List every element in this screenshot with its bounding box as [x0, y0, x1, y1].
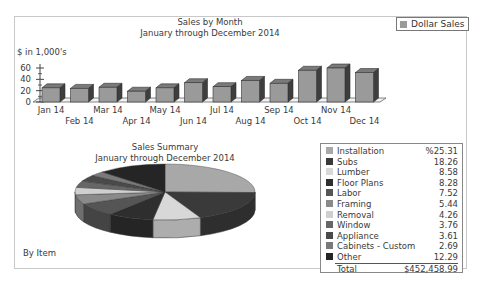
legend-row-label: Cabinets - Custom	[337, 241, 415, 251]
legend-swatch	[326, 189, 333, 196]
pie-chart-plot	[0, 160, 310, 250]
x-tick-label: Dec 14	[350, 116, 380, 126]
legend-row-value: 8.58	[439, 167, 458, 177]
pie-chart-footer: By Item	[23, 248, 56, 258]
x-tick-label: Apr 14	[122, 116, 150, 126]
legend-swatch	[326, 168, 333, 175]
bar	[71, 84, 94, 102]
legend-row: Installation%25.31	[324, 146, 458, 156]
legend-row-value: 4.26	[439, 210, 458, 220]
bar	[242, 76, 265, 102]
total-label: Total	[337, 264, 357, 274]
legend-row-label: Floor Plans	[337, 178, 383, 188]
bar	[327, 64, 350, 102]
legend-row: Cabinets - Custom2.69	[324, 241, 458, 251]
legend-swatch	[326, 147, 333, 154]
legend-row-label: Lumber	[337, 167, 369, 177]
x-tick-label: Aug 14	[235, 116, 265, 126]
bar	[185, 79, 208, 102]
total-value: $452,458.99	[404, 264, 458, 274]
legend-row-label: Other	[337, 252, 361, 262]
legend-row-label: Removal	[337, 210, 374, 220]
pie-chart-title: Sales Summary	[70, 142, 260, 152]
legend-row: Framing5.44	[324, 199, 458, 209]
legend-row: Lumber8.58	[324, 167, 458, 177]
x-tick-label: May 14	[149, 105, 180, 115]
x-tick-label: Oct 14	[293, 116, 321, 126]
legend-row-label: Subs	[337, 157, 358, 167]
legend-row-value: 5.44	[439, 199, 458, 209]
legend-row: Labor7.52	[324, 188, 458, 198]
legend-swatch	[326, 179, 333, 186]
legend-row: Floor Plans8.28	[324, 178, 458, 188]
legend-swatch	[326, 242, 333, 249]
bar	[99, 83, 122, 102]
bar	[213, 83, 236, 102]
legend-swatch	[326, 158, 333, 165]
x-tick-label: Jul 14	[209, 105, 234, 115]
legend-row-label: Window	[337, 220, 371, 230]
legend-row: Appliance3.61	[324, 231, 458, 241]
legend-swatch	[326, 200, 333, 207]
x-tick-label: Mar 14	[93, 105, 123, 115]
legend-row-label: Labor	[337, 188, 361, 198]
x-tick-label: Sep 14	[264, 105, 294, 115]
bar	[270, 79, 293, 102]
legend-row-value: 12.29	[434, 252, 458, 262]
legend-row: Subs18.26	[324, 157, 458, 167]
y-tick-label: 0	[26, 97, 31, 107]
y-tick-label: 60	[20, 63, 31, 73]
x-tick-label: Nov 14	[321, 105, 351, 115]
legend-row-value: 2.69	[439, 241, 458, 251]
summary-legend-table: Installation%25.31Subs18.26Lumber8.58Flo…	[320, 143, 463, 273]
legend-row: Removal4.26	[324, 210, 458, 220]
bar	[156, 84, 179, 102]
legend-row-label: Framing	[337, 199, 371, 209]
legend-row: Other12.29	[324, 252, 458, 262]
legend-row-value: 18.26	[434, 157, 458, 167]
bar	[42, 84, 65, 102]
legend-swatch	[326, 253, 333, 260]
legend-swatch	[326, 232, 333, 239]
x-tick-label: Jan 14	[37, 105, 65, 115]
legend-row-value: 3.76	[439, 220, 458, 230]
legend-row-value: 8.28	[439, 178, 458, 188]
legend-row-value: %25.31	[426, 146, 458, 156]
legend-row-value: 3.61	[439, 231, 458, 241]
legend-row-value: 7.52	[439, 188, 458, 198]
legend-row-label: Installation	[337, 146, 384, 156]
legend-row: Window3.76	[324, 220, 458, 230]
x-tick-label: Feb 14	[65, 116, 94, 126]
legend-swatch	[326, 211, 333, 218]
y-tick-label: 20	[20, 86, 31, 96]
legend-swatch	[326, 221, 333, 228]
y-tick-label: 40	[20, 74, 31, 84]
pie-slice	[165, 164, 255, 193]
total-row: Total$452,458.99	[324, 264, 458, 274]
bar-chart-plot: 0204060Jan 14Feb 14Mar 14Apr 14May 14Jun…	[0, 0, 481, 135]
bar	[356, 69, 379, 102]
bar	[128, 87, 151, 102]
bar	[299, 66, 322, 102]
x-tick-label: Jun 14	[179, 116, 207, 126]
legend-row-label: Appliance	[337, 231, 379, 241]
